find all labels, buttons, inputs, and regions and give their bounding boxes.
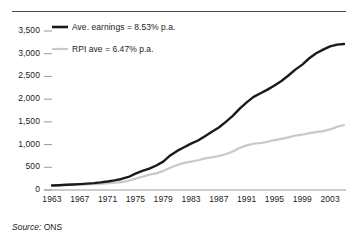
source-note: Source: ONS [12, 222, 62, 232]
y-axis-ticks [44, 31, 52, 190]
y-tick-label: 500 [6, 161, 40, 171]
series-line [52, 44, 344, 186]
x-tick-label: 1979 [148, 194, 178, 204]
legend-swatches [52, 27, 68, 49]
x-tick-label: 1995 [259, 194, 289, 204]
source-label: Source: [12, 222, 41, 232]
x-tick-label: 1963 [37, 194, 67, 204]
x-tick-label: 1991 [232, 194, 262, 204]
y-tick-label: 2,000 [6, 93, 40, 103]
y-tick-label: 3,500 [6, 25, 40, 35]
y-tick-label: 1,500 [6, 116, 40, 126]
y-tick-label: 1,000 [6, 139, 40, 149]
x-tick-label: 1983 [176, 194, 206, 204]
x-tick-label: 1971 [93, 194, 123, 204]
x-tick-label: 1975 [120, 194, 150, 204]
x-tick-label: 1987 [204, 194, 234, 204]
y-tick-label: 2,500 [6, 70, 40, 80]
x-tick-label: 2003 [315, 194, 345, 204]
legend-item-earnings-label: Ave. earnings = 8.53% p.a. [72, 22, 175, 32]
chart-figure: 05001,0001,5002,0002,5003,0003,500 19631… [0, 0, 358, 245]
x-tick-label: 1967 [65, 194, 95, 204]
legend-item-rpi-label: RPI ave = 6.47% p.a. [72, 44, 154, 54]
line-chart-plot [0, 0, 358, 245]
y-tick-label: 3,000 [6, 48, 40, 58]
source-value: ONS [44, 222, 62, 232]
y-tick-label: 0 [6, 184, 40, 194]
series-line [52, 125, 344, 185]
x-tick-label: 1999 [287, 194, 317, 204]
series-paths [52, 44, 344, 186]
